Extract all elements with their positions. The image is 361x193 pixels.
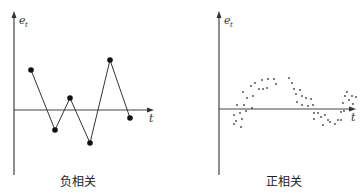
data-point [252,95,254,97]
data-point [340,111,342,113]
data-point [52,127,58,133]
caption-negative-correlation: 负相关 [60,172,96,189]
data-point [355,96,357,98]
data-point [233,114,235,116]
y-axis-label-subscript: t [25,21,28,29]
data-point [317,112,319,114]
data-point [329,121,331,123]
data-point [340,119,342,121]
data-point [293,88,295,90]
data-point [266,87,268,89]
data-point [262,88,264,90]
data-point [313,118,315,120]
data-point [313,112,315,114]
data-point [245,110,247,112]
data-point [261,79,263,81]
data-point [327,119,329,121]
data-point [322,124,324,126]
data-point [299,89,301,91]
data-point [258,88,260,90]
data-point [233,123,235,125]
data-point [301,104,303,106]
data-point [348,99,350,101]
data-point [241,118,243,120]
x-axis-label: t [149,112,154,125]
data-point [254,82,256,84]
data-point [87,140,93,146]
data-point [305,97,307,99]
data-point [246,97,248,99]
y-axis-label-subscript: t [230,21,233,29]
data-point [242,91,244,93]
data-point [288,77,290,79]
data-point [127,115,133,121]
data-point [346,91,348,93]
data-point [324,114,326,116]
data-point [295,93,297,95]
data-point [334,123,336,125]
data-point [28,67,34,73]
x-axis-label: t [351,111,356,124]
data-point [250,85,252,87]
data-point [240,126,242,128]
caption-positive-correlation: 正相关 [266,172,302,189]
data-point [343,110,345,112]
negative-correlation-panel: ett 负相关 [0,0,180,193]
data-point [342,102,344,104]
data-point [320,116,322,118]
data-point [67,95,73,101]
data-point [291,82,293,84]
data-point [312,104,314,106]
data-point [296,101,298,103]
data-point [310,98,312,100]
y-axis-arrow-icon [217,11,222,18]
data-point [337,119,339,121]
positive-correlation-panel: ett 正相关 [180,0,361,193]
data-point [344,95,346,97]
data-point [243,104,245,106]
data-point [273,78,275,80]
data-point [236,104,238,106]
data-point [351,95,353,97]
data-point [107,57,113,63]
data-point [275,83,277,85]
residual-line [31,60,130,143]
data-point [352,103,354,105]
data-point [301,95,303,97]
positive-correlation-chart: ett [180,0,361,193]
data-point [307,105,309,107]
data-point [239,112,241,114]
data-point [267,78,269,80]
negative-correlation-chart: ett [0,0,180,193]
y-axis-arrow-icon [12,11,17,18]
data-point [251,107,253,109]
data-point [235,120,237,122]
